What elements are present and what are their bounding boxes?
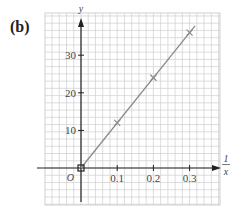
y-tick-label: 10	[65, 124, 77, 136]
origin-label: O	[67, 172, 74, 183]
x-axis-label-numerator: 1	[224, 153, 229, 164]
y-tick-label: 30	[65, 49, 77, 61]
x-tick-label: 0.3	[183, 172, 197, 184]
chart: 0.10.20.3102030yO1x	[0, 0, 237, 209]
x-tick-label: 0.2	[147, 172, 161, 184]
y-tick-label: 20	[65, 87, 77, 99]
x-tick-label: 0.1	[110, 172, 124, 184]
y-axis-label: y	[78, 3, 84, 14]
x-axis-label-denominator: x	[223, 166, 229, 177]
